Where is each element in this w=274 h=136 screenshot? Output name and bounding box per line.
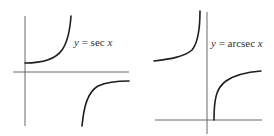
arcsec-label: y = arcsec x [210,37,263,49]
panel-arcsec: y = arcsec x [154,11,263,134]
arcsec-left-branch [154,11,200,61]
sec-label: y = sec x [73,36,112,48]
panel-sec: y = sec x [13,16,129,126]
sec-upper-branch [25,16,71,63]
function-graphs: y = sec x y = arcsec x [0,0,274,136]
sec-lower-branch [82,81,129,126]
arcsec-right-branch [214,71,261,120]
